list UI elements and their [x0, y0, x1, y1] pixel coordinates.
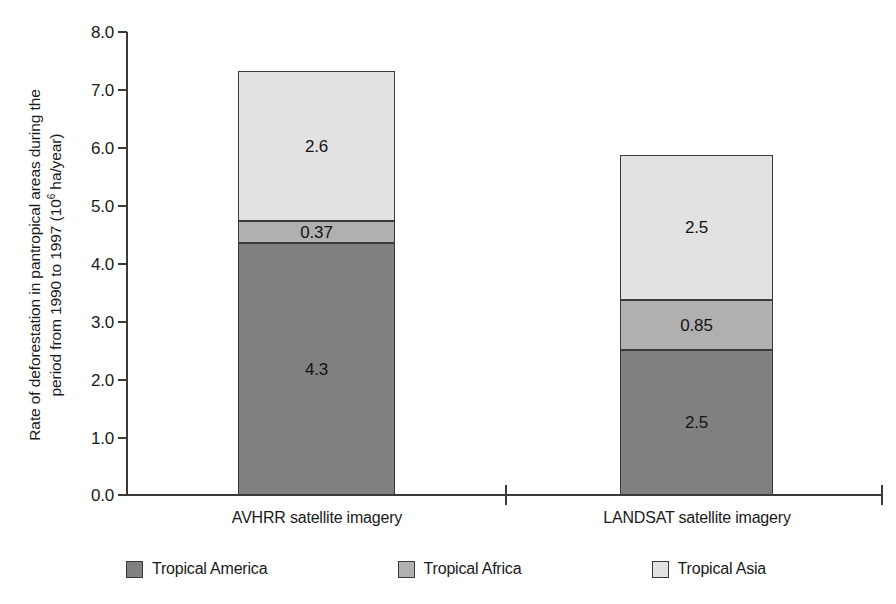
x-category-label-avhrr: AVHRR satellite imagery [196, 508, 438, 527]
bar-segment-avhrr-tropical-africa[interactable]: 0.37 [238, 221, 395, 243]
y-tick-label-7-wrap: 7.0 [36, 82, 114, 99]
bar-segment-landsat-tropical-asia[interactable]: 2.5 [620, 155, 773, 300]
y-tick-1 [118, 437, 127, 439]
y-tick-4 [118, 263, 127, 265]
x-tick-separator [505, 485, 507, 505]
y-tick-label-3-wrap: 3.0 [36, 314, 114, 331]
bar-segment-avhrr-tropical-america[interactable]: 4.3 [238, 243, 395, 495]
deforestation-stacked-bar-chart: Rate of deforestation in pantropical are… [0, 0, 896, 604]
y-tick-label-2: 2.0 [40, 372, 114, 389]
y-tick-label-2-wrap: 2.0 [36, 372, 114, 389]
bar-value-landsat-tropical-asia: 2.5 [685, 219, 708, 236]
legend-item-tropical-africa[interactable]: Tropical Africa [398, 560, 522, 578]
y-tick-label-0-wrap: 0.0 [36, 487, 114, 504]
legend-label-tropical-asia: Tropical Asia [678, 560, 766, 578]
y-tick-7 [118, 89, 127, 91]
y-tick-label-4-wrap: 4.0 [36, 256, 114, 273]
bar-value-avhrr-tropical-asia: 2.6 [305, 138, 328, 155]
y-tick-label-1: 1.0 [40, 430, 114, 447]
y-tick-label-0: 0.0 [40, 487, 114, 504]
y-tick-0 [118, 494, 127, 496]
bar-segment-landsat-tropical-america[interactable]: 2.5 [620, 350, 773, 495]
legend-label-tropical-africa: Tropical Africa [424, 560, 522, 578]
y-tick-label-8-wrap: 8.0 [36, 24, 114, 41]
bar-value-landsat-tropical-africa: 0.85 [680, 317, 712, 334]
y-tick-label-7: 7.0 [40, 82, 114, 99]
legend-item-tropical-america[interactable]: Tropical America [126, 560, 267, 578]
legend-swatch-icon-tropical-africa [398, 561, 415, 578]
y-tick-3 [118, 321, 127, 323]
y-tick-label-1-wrap: 1.0 [36, 430, 114, 447]
x-tick-end [881, 485, 883, 505]
y-tick-label-3: 3.0 [40, 314, 114, 331]
y-tick-label-6-wrap: 6.0 [36, 140, 114, 157]
y-tick-label-4: 4.0 [40, 256, 114, 273]
bar-value-avhrr-tropical-america: 4.3 [305, 361, 328, 378]
y-tick-label-6: 6.0 [40, 140, 114, 157]
y-tick-2 [118, 379, 127, 381]
y-axis-title-line-2-pre: period from 1990 to 1997 (10 [47, 199, 64, 396]
y-tick-8 [118, 31, 127, 33]
x-category-label-landsat: LANDSAT satellite imagery [568, 508, 826, 527]
legend-swatch-icon-tropical-asia [652, 561, 669, 578]
legend-swatch-icon-tropical-america [126, 561, 143, 578]
legend-label-tropical-america: Tropical America [152, 560, 267, 578]
bar-segment-avhrr-tropical-asia[interactable]: 2.6 [238, 71, 395, 221]
legend: Tropical America Tropical Africa Tropica… [126, 560, 766, 578]
y-tick-label-5-wrap: 5.0 [36, 198, 114, 215]
bar-value-landsat-tropical-america: 2.5 [685, 414, 708, 431]
bar-segment-landsat-tropical-africa[interactable]: 0.85 [620, 300, 773, 350]
legend-item-tropical-asia[interactable]: Tropical Asia [652, 560, 766, 578]
bar-value-avhrr-tropical-africa: 0.37 [300, 224, 332, 241]
y-tick-5 [118, 205, 127, 207]
y-tick-label-5: 5.0 [40, 198, 114, 215]
y-tick-6 [118, 147, 127, 149]
y-tick-label-8: 8.0 [40, 24, 114, 41]
